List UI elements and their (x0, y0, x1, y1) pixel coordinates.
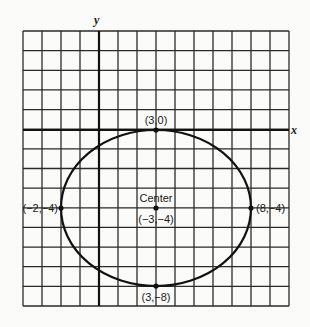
x-axis-label: x (290, 123, 297, 137)
grid (23, 31, 289, 306)
point-right (248, 205, 253, 210)
point-center (153, 205, 158, 210)
label-left: (−2,−4) (23, 202, 58, 214)
label-right: (8,−4) (256, 202, 285, 214)
point-bottom (153, 283, 158, 288)
y-axis-label: y (92, 13, 100, 27)
label-bottom: (3,−8) (141, 291, 170, 303)
label-center: (−3,−4) (138, 213, 173, 225)
point-left (58, 205, 63, 210)
point-top (153, 127, 158, 132)
ellipse-diagram: y x (3,0) (−2,−4) (8,−4) (3,−8) Center (… (0, 0, 310, 327)
label-top: (3,0) (145, 114, 168, 126)
center-title: Center (139, 192, 172, 204)
